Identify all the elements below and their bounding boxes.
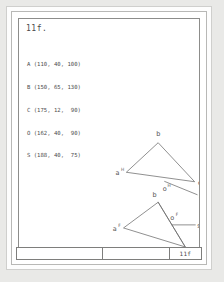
drawing-sheet-page: 11f. A (110, 40, 100) B (150, 65, 130) C… <box>6 6 212 270</box>
title-block: 11f <box>16 247 202 260</box>
projection-figures: a H b c o H s a F b <box>19 19 199 257</box>
label-a-horizontal: a <box>115 169 119 177</box>
label-s-frontal: s <box>197 222 199 230</box>
label-o-horizontal: o <box>163 185 167 193</box>
label-o-frontal: o <box>170 214 174 222</box>
frontal-projection-figure: a F b c o F s <box>113 191 199 255</box>
label-o-frontal-sup: F <box>176 212 179 217</box>
frontal-ray-bc <box>158 202 185 246</box>
projection-svg: a H b c o H s a F b <box>19 19 199 257</box>
frontal-triangle <box>124 202 185 246</box>
label-a-horizontal-sup: H <box>121 167 124 172</box>
horizontal-projection-figure: a H b c o H s <box>115 130 199 200</box>
sheet-outer-frame: 11f. A (110, 40, 100) B (150, 65, 130) C… <box>11 11 207 265</box>
title-block-sheet-number: 11f <box>170 248 201 259</box>
label-o-horizontal-sup: H <box>167 183 170 188</box>
horizontal-triangle <box>127 143 195 182</box>
label-a-frontal-sup: F <box>118 223 121 228</box>
drawing-area: 11f. A (110, 40, 100) B (150, 65, 130) C… <box>18 18 200 258</box>
title-block-mid-cell <box>103 248 169 259</box>
label-b-frontal: b <box>153 191 157 199</box>
label-a-frontal: a <box>113 225 117 233</box>
title-block-left-cell <box>17 248 103 259</box>
label-c-horizontal: c <box>198 179 199 187</box>
label-b-horizontal: b <box>156 130 160 138</box>
